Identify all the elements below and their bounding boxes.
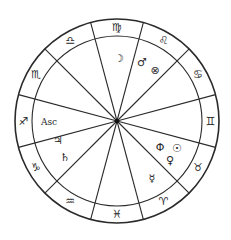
house-cusp-line <box>117 49 189 121</box>
sign-gemini-icon: ♊︎ <box>206 115 216 128</box>
sign-pisces-icon: ♓︎ <box>112 208 122 221</box>
planet-mars-icon: ♂︎ <box>137 56 147 69</box>
house-cusp-line <box>45 49 117 121</box>
house-cusp-line <box>45 121 117 193</box>
sign-sagittarius-icon: ♐︎ <box>19 115 29 128</box>
center-hub <box>115 119 119 123</box>
sign-aries-icon: ♈︎ <box>159 195 169 208</box>
sign-capricorn-icon: ♑︎ <box>31 161 41 174</box>
sign-taurus-icon: ♉︎ <box>193 161 203 174</box>
sign-leo-icon: ♌︎ <box>159 34 169 47</box>
planet-jupiter-icon: ♃︎ <box>53 134 63 147</box>
planet-phi-icon: Φ︎ <box>156 141 165 154</box>
planet-part-of-fortune-icon: ⊗︎ <box>150 64 159 77</box>
planet-moon-icon: ☽︎ <box>114 52 124 65</box>
planet-mercury-icon: ☿︎ <box>149 172 156 185</box>
planet-saturn-icon: ♄︎ <box>60 151 70 164</box>
ascendant-label: Asc <box>40 117 57 127</box>
planet-venus-icon: ♀︎ <box>166 154 174 167</box>
sign-libra-icon: ♎︎ <box>65 34 75 47</box>
sign-virgo-icon: ♍︎ <box>112 21 122 34</box>
sign-scorpio-icon: ♏︎ <box>31 68 41 81</box>
sign-aquarius-icon: ♒︎ <box>65 195 75 208</box>
sign-cancer-icon: ♋︎ <box>193 68 203 81</box>
astrological-chart-wheel: ♍︎♌︎♋︎♊︎♉︎♈︎♓︎♒︎♑︎♐︎♏︎♎︎ ☽︎♂︎⊗︎♃︎♄︎Φ︎☉︎♀… <box>0 0 231 240</box>
